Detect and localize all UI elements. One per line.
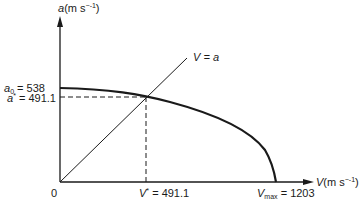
- y-axis-label: a(m s−-1): [58, 3, 100, 14]
- x-axis-label: V(m s−-1): [316, 177, 359, 188]
- vmax-label: Vmax = 1203: [257, 188, 315, 199]
- a-star-label: a* = 491.1: [7, 93, 56, 104]
- x-axis-arrow-icon: [303, 179, 314, 185]
- v-equals-a-line: [60, 58, 187, 182]
- v-star-label: V* = 491.1: [139, 188, 189, 199]
- y-axis-arrow-icon: [57, 16, 63, 27]
- a-of-v-curve: [60, 88, 276, 182]
- v-equals-a-label: V = a: [193, 52, 219, 63]
- origin-label: 0: [51, 188, 57, 199]
